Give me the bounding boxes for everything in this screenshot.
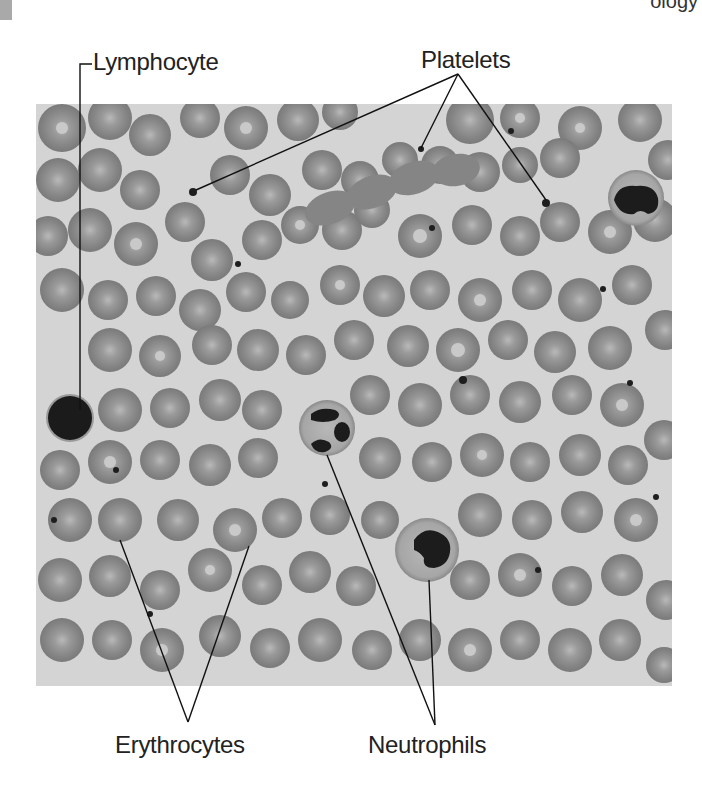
blood-smear-micrograph	[0, 0, 702, 792]
neutrophil-cell-1	[299, 400, 355, 456]
neutrophil-cell-3	[608, 170, 664, 226]
lymphocyte-cell	[46, 394, 94, 442]
label-neutrophils: Neutrophils	[368, 731, 486, 759]
label-erythrocytes: Erythrocytes	[115, 731, 245, 759]
micrograph-photo	[28, 94, 688, 686]
neutrophil-cell-2	[395, 518, 459, 582]
label-lymphocyte: Lymphocyte	[93, 48, 219, 76]
label-platelets: Platelets	[421, 46, 510, 74]
